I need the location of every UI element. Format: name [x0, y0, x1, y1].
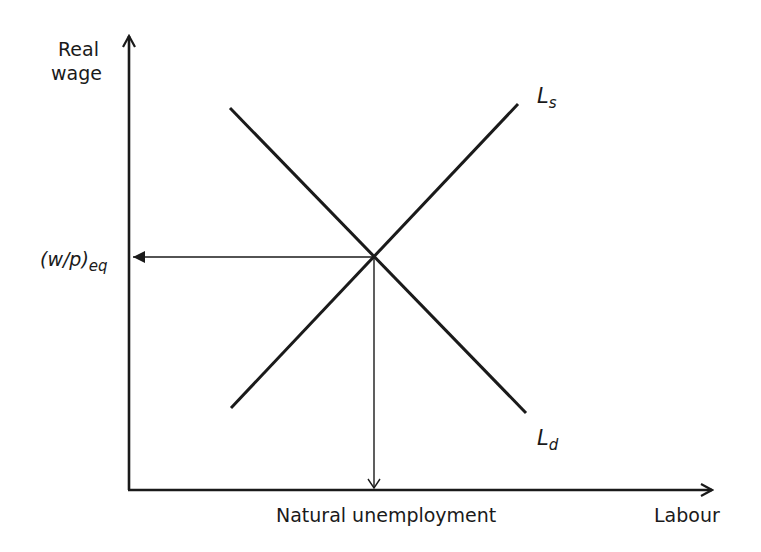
y-axis-label-line1: Real — [51, 37, 102, 61]
labour-market-diagram — [0, 0, 761, 552]
equilibrium-wage-label: (w/p)eq — [40, 250, 108, 274]
labour-demand-curve — [230, 108, 526, 413]
equilibrium-wage-subscript: eq — [89, 257, 108, 275]
y-axis-label-line2: wage — [51, 61, 102, 85]
supply-curve-label: Ls — [537, 86, 557, 111]
equilibrium-wage-text: (w/p) — [40, 248, 89, 270]
y-axis-label: Real wage — [51, 37, 102, 85]
demand-curve-subscript: d — [549, 436, 559, 454]
supply-curve-subscript: s — [549, 94, 557, 112]
demand-curve-letter: L — [537, 426, 549, 450]
demand-curve-label: Ld — [537, 428, 558, 453]
natural-unemployment-label: Natural unemployment — [276, 506, 496, 525]
x-axis-label: Labour — [654, 506, 720, 525]
supply-curve-letter: L — [537, 84, 549, 108]
